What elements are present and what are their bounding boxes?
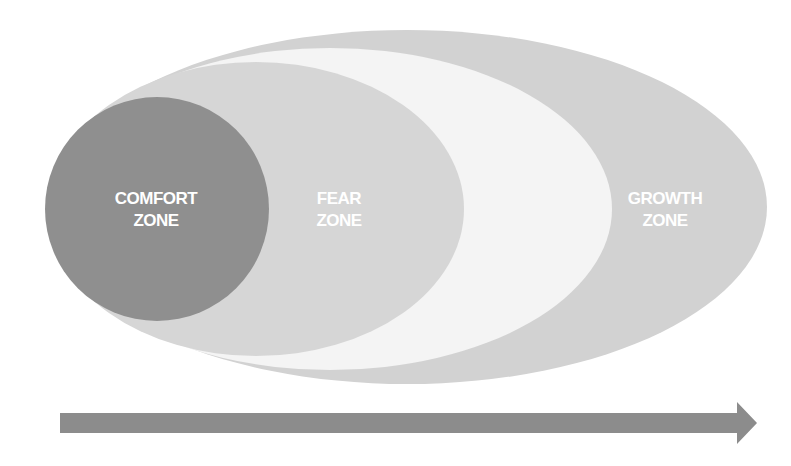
comfort-zone-diagram: COMFORT ZONE FEAR ZONE GROWTH ZONE: [0, 0, 791, 466]
comfort-zone-label: COMFORT: [115, 189, 199, 208]
growth-zone-label-line2: ZONE: [642, 211, 687, 230]
fear-zone-label-line2: ZONE: [316, 211, 361, 230]
comfort-zone-label-line2: ZONE: [133, 211, 178, 230]
fear-zone-label: FEAR: [317, 189, 362, 208]
progress-arrow-icon: [60, 402, 757, 444]
comfort-zone: [45, 97, 269, 321]
growth-zone-label: GROWTH: [628, 189, 703, 208]
